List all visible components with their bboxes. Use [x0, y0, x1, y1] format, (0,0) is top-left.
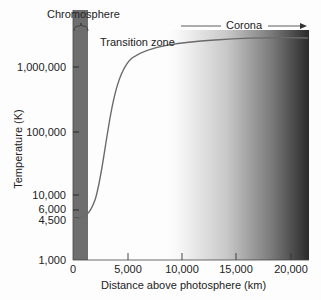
- y-axis-title: Temperature (K): [12, 99, 24, 199]
- y-tick-label: 4,500: [0, 214, 66, 226]
- x-tick-label: 15,000: [211, 263, 261, 275]
- y-tick-label: 1,000,000: [0, 61, 66, 73]
- chromosphere-band: [73, 10, 88, 260]
- y-tick-label: 10,000: [0, 189, 66, 201]
- transition-zone-label: Transition zone: [100, 36, 175, 48]
- x-tick-label: 10,000: [157, 263, 207, 275]
- corona-gradient-region: [160, 30, 309, 260]
- x-tick-label: 5,000: [103, 263, 153, 275]
- x-tick-label: 0: [48, 263, 98, 275]
- corona-label: Corona: [226, 19, 262, 31]
- arrow-right-icon: [300, 23, 307, 29]
- x-tick-label: 20,000: [266, 263, 316, 275]
- y-tick-label: 100,000: [0, 126, 66, 138]
- x-axis-title: Distance above photosphere (km): [101, 279, 266, 291]
- chromosphere-label: Chromosphere: [47, 8, 120, 20]
